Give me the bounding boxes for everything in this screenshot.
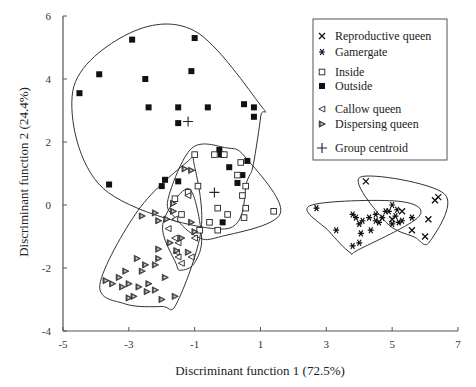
data-point-inside [243,183,249,189]
x-tick-label: 5 [389,338,395,350]
data-point-reproductive-queen [425,216,431,222]
data-point-inside [235,172,241,178]
legend-label: Dispersing queen [335,117,419,131]
x-tick-label: -1 [190,338,199,350]
data-point-outside [159,183,165,189]
data-point-outside [234,180,240,186]
data-point-callow-queen [165,226,171,232]
legend-marker-outside [319,83,325,89]
hull-outside [72,24,266,229]
data-point-outside [251,114,257,120]
legend-label: Reproductive queen [335,29,431,43]
data-point-inside [207,220,213,226]
data-point-gamergate [366,215,372,221]
data-point-outside [96,71,102,77]
data-point-inside [215,227,221,233]
data-point-gamergate [358,230,364,236]
legend-label: Outside [335,79,372,93]
data-point-reproductive-queen [409,227,415,233]
x-tick-label: 1 [258,338,264,350]
data-point-callow-queen [172,235,178,241]
data-point-inside [271,209,277,215]
data-point-gamergate [356,240,362,246]
x-tick-label: 3 [324,338,330,350]
data-point-gamergate [389,202,395,208]
legend-label: Group centroid [335,141,408,155]
x-tick-label: 7 [455,338,461,350]
data-point-outside [188,68,194,74]
data-point-outside [106,182,112,188]
legend-marker-inside [319,69,325,75]
data-point-outside [142,76,148,82]
data-point-outside [220,219,226,225]
data-point-inside [172,196,178,202]
data-point-reproductive-queen [363,178,369,184]
legend: Reproductive queenGamergateInsideOutside… [313,19,447,160]
data-point-gamergate [350,243,356,249]
data-point-inside [221,152,227,158]
data-point-outside [76,90,82,96]
data-point-gamergate [409,215,415,221]
y-tick-label: -2 [42,262,51,274]
data-point-outside [244,158,250,164]
data-point-outside [205,104,211,110]
data-point-outside [146,104,152,110]
hull-gamergate [307,200,421,254]
data-point-inside [212,152,218,158]
data-point-inside [240,193,246,199]
data-point-inside [215,205,221,211]
x-axis-title: Discriminant function 1 (72.5%) [175,363,345,378]
y-axis-title: Discriminant function 2 (24.4%) [16,87,31,257]
group-centroid-marker [183,117,193,127]
x-tick-label: -3 [124,338,134,350]
data-point-inside [241,215,247,221]
y-tick-label: -4 [42,325,52,337]
data-point-gamergate [368,227,374,233]
group-centroid-marker [209,187,219,197]
data-point-gamergate [394,207,400,213]
data-point-gamergate [313,205,319,211]
data-point-outside [175,178,181,184]
data-point-outside [251,104,257,110]
data-point-inside [195,183,201,189]
data-point-inside [225,212,231,218]
data-point-inside [192,152,198,158]
legend-label: Inside [335,65,364,79]
data-point-outside [129,37,135,43]
data-point-reproductive-queen [399,208,405,214]
data-point-inside [238,160,244,166]
legend-label: Gamergate [335,45,387,59]
y-tick-label: 0 [46,199,52,211]
y-tick-label: 2 [46,136,52,148]
x-tick-label: -5 [58,338,68,350]
data-point-reproductive-queen [422,234,428,240]
data-point-reproductive-queen [435,194,441,200]
data-point-outside [192,35,198,41]
data-point-callow-queen [191,235,197,241]
discriminant-scatter-chart: -5-3-11357-4-20246 Reproductive queenGam… [0,0,476,387]
data-point-gamergate [333,227,339,233]
data-point-outside [162,177,168,183]
data-point-inside [243,205,249,211]
legend-label: Callow queen [335,102,401,116]
y-tick-label: 6 [46,10,52,22]
data-point-outside [175,104,181,110]
data-point-callow-queen [188,254,194,260]
y-tick-label: 4 [46,73,52,85]
hull-dispersing-queen [100,156,202,310]
data-point-outside [226,164,232,170]
data-point-callow-queen [178,260,184,266]
data-point-outside [241,101,247,107]
data-point-outside [175,120,181,126]
data-point-inside [179,212,185,218]
